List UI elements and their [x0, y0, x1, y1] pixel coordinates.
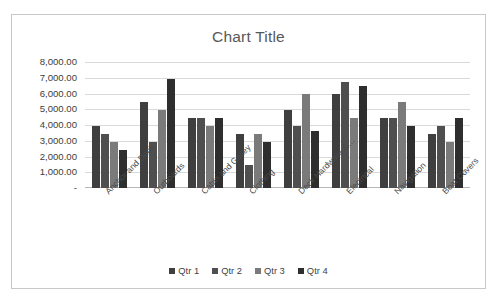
bar[interactable]: [341, 82, 349, 188]
legend-label: Qtr 2: [221, 265, 242, 276]
legend-swatch-icon: [169, 268, 175, 274]
bar[interactable]: [101, 134, 109, 188]
y-axis-tick-label: -: [74, 183, 77, 193]
legend-swatch-icon: [212, 268, 218, 274]
y-axis-tick-label: 8,000.00: [40, 57, 77, 67]
legend-label: Qtr 1: [178, 265, 199, 276]
bar[interactable]: [284, 110, 292, 188]
y-axis-tick-label: 2,000.00: [40, 152, 77, 162]
bar[interactable]: [389, 118, 397, 188]
bar[interactable]: [437, 126, 445, 188]
bar[interactable]: [92, 126, 100, 188]
y-axis-tick-label: 5,000.00: [40, 104, 77, 114]
legend-item[interactable]: Qtr 4: [298, 265, 328, 276]
x-axis-labels: Anchor and DockOutboardsCabin and Galley…: [85, 189, 470, 261]
bar[interactable]: [302, 94, 310, 188]
y-axis-tick-label: 7,000.00: [40, 73, 77, 83]
legend-swatch-icon: [298, 268, 304, 274]
bar[interactable]: [197, 118, 205, 188]
bar[interactable]: [380, 118, 388, 188]
bar[interactable]: [428, 134, 436, 188]
bar[interactable]: [188, 118, 196, 188]
legend-label: Qtr 4: [307, 265, 328, 276]
legend-item[interactable]: Qtr 3: [255, 265, 285, 276]
bar[interactable]: [332, 94, 340, 188]
chart-title: Chart Title: [12, 28, 485, 46]
y-axis-tick-label: 4,000.00: [40, 120, 77, 130]
bar[interactable]: [293, 126, 301, 188]
y-axis-labels: -1,000.002,000.003,000.004,000.005,000.0…: [12, 62, 82, 188]
y-axis-tick-label: 3,000.00: [40, 136, 77, 146]
legend-label: Qtr 3: [264, 265, 285, 276]
legend-item[interactable]: Qtr 1: [169, 265, 199, 276]
y-axis-tick-label: 6,000.00: [40, 89, 77, 99]
chart-legend[interactable]: Qtr 1Qtr 2Qtr 3Qtr 4: [12, 265, 485, 276]
chart-container[interactable]: Chart Title -1,000.002,000.003,000.004,0…: [11, 14, 486, 289]
legend-swatch-icon: [255, 268, 261, 274]
legend-item[interactable]: Qtr 2: [212, 265, 242, 276]
y-axis-tick-label: 1,000.00: [40, 167, 77, 177]
